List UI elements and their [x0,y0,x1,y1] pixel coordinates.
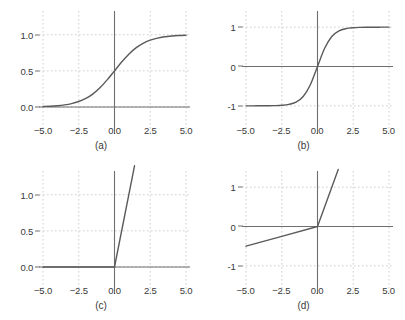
panel-c-svg [43,173,186,280]
activation-functions-figure: 0.00.51.0 −5.0−2.50.02.55.0 (a) -101 −5.… [0,0,405,320]
panel-c: 0.00.51.0 −5.0−2.50.02.55.0 (c) [0,160,202,320]
panel-b-y-axis-labels: -101 [203,13,243,120]
x-tick-label: −5.0 [34,285,52,296]
y-tick-label-text: 0.5 [20,225,33,236]
y-tick-label: -1 [227,100,242,111]
x-tick-label: 2.5 [144,125,157,136]
x-tick-label: 5.0 [382,285,395,296]
x-tick-label: −2.5 [272,125,290,136]
panel-b-svg [246,13,389,120]
x-tick-label: 2.5 [346,285,359,296]
y-tick-label: 1 [230,22,242,33]
y-tick-label: 0.0 [20,101,40,112]
y-tick-label-text: -1 [227,100,235,111]
y-tick-label-text: 1 [230,182,235,193]
panel-c-curve [43,166,135,267]
y-tick-label: 1.0 [20,29,40,40]
y-tick-label-text: 0.5 [20,65,33,76]
y-tick-label-text: 1.0 [20,29,33,40]
y-tick-label: 1 [230,182,242,193]
panel-a-caption: (a) [0,140,202,151]
y-tick-label: 0.5 [20,225,40,236]
panel-b-x-axis-labels: −5.0−2.50.02.55.0 [246,125,389,141]
panel-b-axes [242,11,393,134]
panel-d: -101 −5.0−2.50.02.55.0 (d) [203,160,405,320]
panel-c-x-axis-labels: −5.0−2.50.02.55.0 [43,285,186,301]
panel-b: -101 −5.0−2.50.02.55.0 (b) [203,0,405,160]
x-tick-label: 5.0 [180,285,193,296]
x-tick-label: −5.0 [237,125,255,136]
panel-a-axes [39,11,190,134]
x-tick-label: 0.0 [108,125,121,136]
x-tick-label: 5.0 [382,125,395,136]
x-tick-label: 2.5 [144,285,157,296]
y-tick-label-text: 0.0 [20,101,33,112]
panel-c-caption: (c) [0,300,202,311]
panel-d-caption: (d) [203,300,405,311]
x-tick-label: −5.0 [34,125,52,136]
panel-a: 0.00.51.0 −5.0−2.50.02.55.0 (a) [0,0,202,160]
panel-c-plot-area [43,173,186,280]
x-tick-label: −5.0 [237,285,255,296]
panel-a-x-axis-labels: −5.0−2.50.02.55.0 [43,125,186,141]
x-tick-label: 2.5 [346,125,359,136]
x-tick-label: 0.0 [311,285,324,296]
panel-d-curve [246,169,338,246]
panel-d-axes [242,171,393,294]
panel-b-caption: (b) [203,140,405,151]
y-tick-label-text: 1.0 [20,189,33,200]
panel-d-plot-area [246,173,389,280]
panel-a-svg [43,13,186,120]
y-tick-label: 0 [230,221,242,232]
panel-d-y-axis-labels: -101 [203,173,243,280]
y-tick-label-text: 1 [230,22,235,33]
x-tick-label: −2.5 [272,285,290,296]
x-tick-label: 5.0 [180,125,193,136]
y-tick-label: 0.0 [20,261,40,272]
y-tick-label-text: -1 [227,260,235,271]
x-tick-label: 0.0 [311,125,324,136]
y-tick-label: 0 [230,61,242,72]
panel-b-plot-area [246,13,389,120]
y-tick-label-text: 0.0 [20,261,33,272]
y-tick-label: 0.5 [20,65,40,76]
panel-c-y-axis-labels: 0.00.51.0 [0,173,40,280]
y-tick-label-text: 0 [230,61,235,72]
x-tick-label: 0.0 [108,285,121,296]
y-tick-label-text: 0 [230,221,235,232]
panel-d-svg [246,173,389,280]
panel-a-plot-area [43,13,186,120]
y-tick-label: -1 [227,260,242,271]
x-tick-label: −2.5 [70,285,88,296]
panel-d-x-axis-labels: −5.0−2.50.02.55.0 [246,285,389,301]
x-tick-label: −2.5 [70,125,88,136]
panel-a-y-axis-labels: 0.00.51.0 [0,13,40,120]
y-tick-label: 1.0 [20,189,40,200]
panel-c-axes [39,171,190,294]
